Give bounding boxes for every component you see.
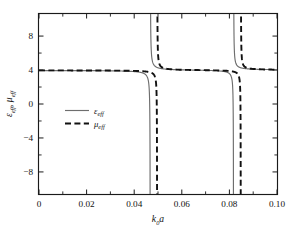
- figure-container: 00.020.040.060.080.10 840−4−8 εeff μeff …: [0, 0, 295, 234]
- y-tick-label: 0: [28, 99, 33, 109]
- y-tick-label: 4: [28, 65, 33, 75]
- x-tick-label: 0.04: [126, 199, 142, 209]
- y-tick-label: −8: [23, 167, 33, 177]
- x-tick-label: 0.06: [174, 199, 190, 209]
- effective-parameters-chart: 00.020.040.060.080.10 840−4−8 εeff μeff …: [0, 0, 295, 234]
- x-tick-label: 0.02: [79, 199, 95, 209]
- x-tick-label: 0.08: [221, 199, 237, 209]
- y-tick-label: −4: [23, 133, 33, 143]
- y-tick-label: 8: [28, 31, 33, 41]
- x-tick-label: 0: [37, 199, 42, 209]
- x-tick-label: 0.10: [269, 199, 285, 209]
- chart-background: [0, 0, 295, 234]
